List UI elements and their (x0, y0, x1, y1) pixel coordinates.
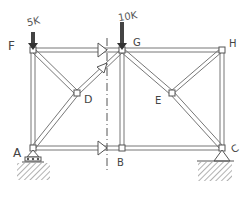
arrow-right-icon (98, 141, 107, 155)
label-G: G (133, 37, 141, 48)
member-BC (122, 146, 222, 150)
truss-diagram: 5K 10K F G H D E A B C (0, 0, 248, 199)
load-label-G: 10K (117, 9, 138, 23)
joint-H (219, 47, 225, 53)
joint-D (74, 90, 80, 96)
load-label-F: 5K (26, 15, 41, 29)
label-B: B (117, 157, 124, 168)
label-D: D (84, 93, 92, 106)
member-GE (121, 48, 173, 95)
truss-members (31, 48, 224, 150)
member-AD (32, 91, 79, 149)
load-F: 5K (26, 15, 41, 50)
member-HE (171, 48, 223, 94)
support-A-roller (17, 150, 50, 180)
member-FG (33, 48, 122, 52)
member-GB (120, 50, 124, 148)
arrow-right-icon (98, 43, 107, 57)
label-F: F (8, 39, 15, 53)
section-force-arrows (97, 43, 107, 155)
member-GH (122, 48, 222, 52)
member-AB (33, 146, 122, 150)
member-FD (32, 48, 78, 95)
support-C-pin (197, 150, 234, 181)
joint-E (169, 90, 175, 96)
joint-B (119, 145, 125, 151)
truss-joints (30, 47, 225, 151)
label-E: E (155, 95, 161, 106)
label-H: H (229, 38, 237, 49)
member-EC (170, 91, 223, 149)
label-A: A (13, 146, 22, 160)
label-C: C (229, 142, 241, 155)
member-FA (31, 50, 35, 148)
arrow-up-right-icon (97, 63, 107, 73)
member-HC (220, 50, 224, 148)
